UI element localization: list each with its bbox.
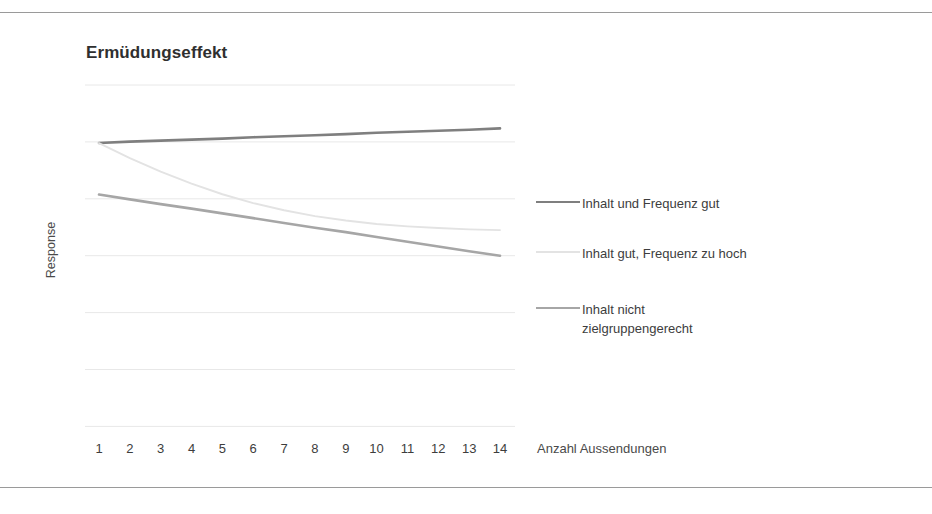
series-line: [99, 195, 500, 256]
page-bottom-rule: [0, 487, 932, 488]
x-axis-tick-label: 14: [485, 441, 515, 456]
x-axis-tick-label: 7: [269, 441, 299, 456]
x-axis-tick-label: 10: [362, 441, 392, 456]
x-axis-tick-label: 11: [393, 441, 423, 456]
legend-entry-label: Inhalt und Frequenz gut: [582, 195, 719, 214]
x-axis-tick-label: 8: [300, 441, 330, 456]
x-axis-tick-label: 1: [84, 441, 114, 456]
legend-entry[interactable]: Inhalt und Frequenz gut: [536, 195, 719, 214]
x-axis-tick-labels: 1234567891011121314: [0, 441, 932, 467]
plot-area: [0, 13, 932, 487]
legend-entry-label: Inhalt gut, Frequenz zu hoch: [582, 245, 747, 264]
legend-line-swatch-icon: [536, 245, 580, 258]
series-line: [99, 143, 500, 230]
series-lines: [99, 128, 500, 255]
legend-entry-label: Inhalt nicht zielgruppengerecht: [582, 301, 693, 339]
x-axis-tick-label: 13: [454, 441, 484, 456]
x-axis-tick-label: 9: [331, 441, 361, 456]
x-axis-tick-label: 4: [177, 441, 207, 456]
legend-line-swatch-icon: [536, 195, 580, 208]
x-axis-tick-label: 12: [423, 441, 453, 456]
legend-entry[interactable]: Inhalt gut, Frequenz zu hoch: [536, 245, 747, 264]
x-axis-tick-label: 6: [238, 441, 268, 456]
series-line: [99, 128, 500, 143]
x-axis-tick-label: 5: [207, 441, 237, 456]
legend-line-swatch-icon: [536, 301, 580, 314]
chart-figure: Ermüdungseffekt Response 123456789101112…: [0, 13, 932, 487]
x-axis-title: Anzahl Aussendungen: [537, 441, 666, 456]
x-axis-tick-label: 3: [146, 441, 176, 456]
x-axis-tick-label: 2: [115, 441, 145, 456]
legend-entry[interactable]: Inhalt nicht zielgruppengerecht: [536, 301, 693, 339]
